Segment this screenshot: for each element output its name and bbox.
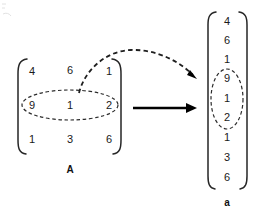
- matrix-cell-r2c0: 1: [29, 133, 35, 145]
- vector-cell-3: 9: [224, 72, 230, 84]
- vector-cell-5: 2: [224, 111, 230, 123]
- matrix-cell-r0c0: 4: [29, 65, 35, 77]
- transform-arrow: [133, 103, 197, 113]
- vector-cell-8: 6: [224, 171, 230, 183]
- vector-left-bracket: [208, 12, 216, 189]
- matrix-right-bracket: [112, 59, 121, 154]
- scan-artifact: [2, 4, 11, 16]
- vector-label: a: [224, 197, 230, 208]
- row-mapping-arrow: [79, 50, 197, 93]
- vector-a-group: 4 6 1 9 1 2 1 3 6 a: [208, 12, 247, 208]
- diagram-canvas: 4 6 1 9 1 2 1 3 6 A: [0, 0, 254, 213]
- matrix-label: A: [66, 164, 73, 175]
- transform-arrow-head: [186, 103, 197, 113]
- matrix-cell-r1c0: 9: [29, 99, 35, 111]
- vector-cell-2: 1: [224, 53, 230, 65]
- matrix-cell-r0c2: 1: [106, 65, 112, 77]
- vector-cell-7: 3: [224, 151, 230, 163]
- row-mapping-arrow-path: [79, 50, 193, 93]
- vector-cell-6: 1: [224, 131, 230, 143]
- matrix-cell-r0c1: 6: [67, 64, 73, 76]
- matrix-cell-r2c1: 3: [67, 133, 73, 145]
- matrix-cell-r1c2: 2: [106, 99, 112, 111]
- vector-cell-4: 1: [224, 92, 230, 104]
- matrix-a-group: 4 6 1 9 1 2 1 3 6 A: [18, 59, 121, 175]
- vector-cell-0: 4: [224, 15, 230, 27]
- matrix-cell-r2c2: 6: [106, 133, 112, 145]
- vector-cell-1: 6: [224, 34, 230, 46]
- matrix-cell-r1c1: 1: [67, 99, 73, 111]
